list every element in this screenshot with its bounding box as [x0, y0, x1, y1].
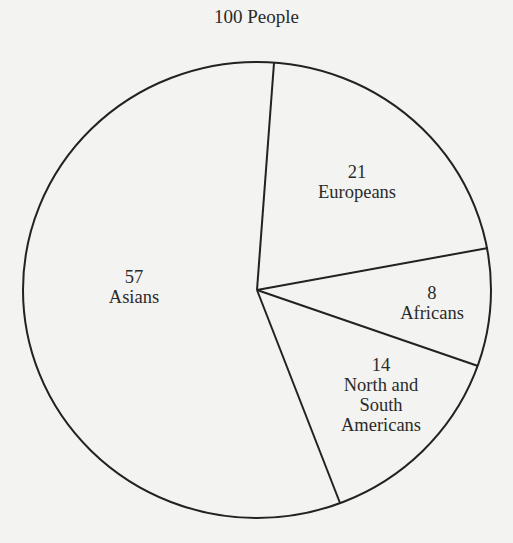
- slice-label-europeans: 21 Europeans: [318, 162, 396, 202]
- slice-label-americans: 14 North and South Americans: [341, 355, 421, 435]
- slice-value: 21: [318, 162, 396, 182]
- slice-divider-asians-europeans: [257, 63, 274, 290]
- slice-name: Africans: [400, 303, 464, 323]
- slice-name-line: North and: [341, 375, 421, 395]
- slice-divider-americans-asians: [257, 290, 340, 503]
- slice-name: Asians: [109, 287, 159, 307]
- slice-name-line: Americans: [341, 415, 421, 435]
- slice-value: 8: [400, 283, 464, 303]
- slice-name: Europeans: [318, 182, 396, 202]
- slice-value: 14: [341, 355, 421, 375]
- slice-name-line: South: [341, 395, 421, 415]
- pie-chart: [0, 0, 513, 543]
- slice-label-africans: 8 Africans: [400, 283, 464, 323]
- slice-value: 57: [109, 267, 159, 287]
- slice-label-asians: 57 Asians: [109, 267, 159, 307]
